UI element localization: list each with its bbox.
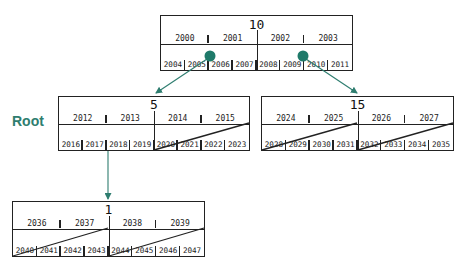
empty-slot-diagonal xyxy=(13,228,108,256)
empty-slot-diagonal xyxy=(262,123,357,150)
arrow-to-node-5 xyxy=(156,57,210,93)
tree-diagram: 10 2000 2001 2002 2003 2004 2005 2006 20… xyxy=(0,0,466,274)
connectors-overlay xyxy=(0,0,466,274)
arrow-to-node-15 xyxy=(303,57,357,93)
pointer-dot-icon xyxy=(205,51,216,62)
empty-slot-diagonal xyxy=(109,228,204,256)
empty-slot-diagonal xyxy=(358,123,453,150)
empty-slot-diagonal xyxy=(154,123,249,150)
pointer-dot-icon xyxy=(298,51,309,62)
